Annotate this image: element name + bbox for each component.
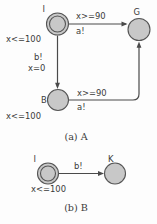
edge-b-to-g-arrowhead xyxy=(137,42,142,48)
diagram-a: x>=90 a! b! x=0 x>=90 a! I xyxy=(6,4,150,142)
edge-i-to-b-guard: b! xyxy=(34,52,43,62)
edge-b-to-g-action: a! xyxy=(77,102,86,112)
node-i-b-label: I xyxy=(34,154,36,164)
node-i-a-label: I xyxy=(43,4,45,14)
edge-i-to-g: x>=90 a! xyxy=(69,11,128,36)
node-k-b-circle xyxy=(105,163,126,184)
edge-i-to-b-action: x=0 xyxy=(28,63,45,73)
node-k-b-label: K xyxy=(108,154,114,164)
node-i-b-invariant: x<=100 xyxy=(31,184,66,194)
caption-a: (a) A xyxy=(64,131,88,142)
node-i-a-invariant: x<=100 xyxy=(6,34,41,44)
node-i-a[interactable]: I x<=100 xyxy=(6,4,69,44)
caption-b: (b) B xyxy=(64,202,88,213)
edge-i-to-b-arrowhead xyxy=(55,83,60,89)
node-i-a-inner-circle xyxy=(50,16,66,32)
node-i-b-inner-circle xyxy=(41,166,56,181)
edge-b-to-g: x>=90 a! xyxy=(69,42,141,112)
edge-i-to-k-arrowhead xyxy=(98,171,104,176)
figure-canvas: x>=90 a! b! x=0 x>=90 a! I xyxy=(0,0,157,224)
node-g-a-label: G xyxy=(134,7,141,17)
edge-i-to-g-action: a! xyxy=(76,26,85,36)
edge-i-to-g-guard: x>=90 xyxy=(76,11,106,21)
diagram-b: b! I x<=100 K (b) B xyxy=(31,154,126,213)
node-g-a-circle xyxy=(128,19,150,41)
node-b-a-label: B xyxy=(41,95,47,105)
node-b-a-circle xyxy=(48,90,69,111)
node-k-b[interactable]: K xyxy=(105,154,126,184)
edge-b-to-g-guard: x>=90 xyxy=(77,88,107,98)
node-b-a-invariant: x<=100 xyxy=(6,111,41,121)
node-g-a[interactable]: G xyxy=(128,7,150,41)
edge-i-to-g-arrowhead xyxy=(122,22,128,27)
edge-i-to-k-guard: b! xyxy=(74,161,83,171)
edge-i-to-k: b! xyxy=(59,161,105,176)
node-b-a[interactable]: B x<=100 xyxy=(6,90,69,122)
